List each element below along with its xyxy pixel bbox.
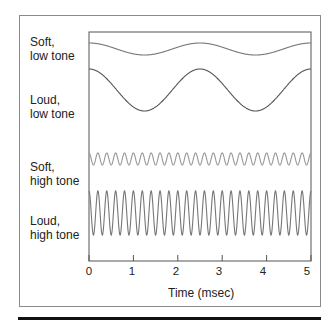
waveform-loud-high-tone <box>89 191 311 235</box>
x-tick-0: 0 <box>81 265 97 277</box>
waveform-soft-high-tone <box>89 153 311 165</box>
series-label-soft-high: Soft,high tone <box>30 160 79 188</box>
x-axis-label: Time (msec) <box>168 286 234 300</box>
waveform-soft-low-tone <box>89 43 311 55</box>
x-tick-1: 1 <box>124 265 140 277</box>
plot-area <box>89 32 311 261</box>
series-label-loud-high: Loud,high tone <box>30 214 79 242</box>
bottom-rule <box>18 317 321 320</box>
waveform-loud-low-tone <box>89 69 311 111</box>
series-label-loud-low: Loud,low tone <box>30 93 75 121</box>
x-tick-4: 4 <box>255 265 271 277</box>
x-tick-5: 5 <box>299 265 315 277</box>
x-tick-3: 3 <box>211 265 227 277</box>
series-label-soft-low: Soft,low tone <box>30 35 75 63</box>
x-tick-2: 2 <box>168 265 184 277</box>
